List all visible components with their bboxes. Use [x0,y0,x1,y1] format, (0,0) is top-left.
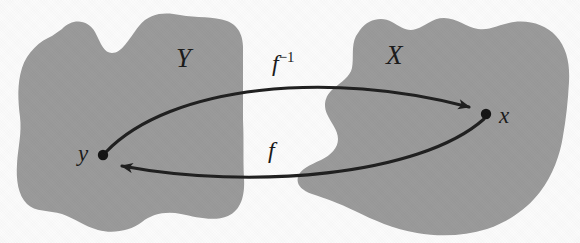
point-y-label: y [78,142,88,165]
set-y-label: Y [176,45,191,72]
set-mapping-figure: Y X y x f−1 f [0,0,580,243]
set-x-shape [298,18,570,235]
arrow-forward-label-base: f [268,137,275,163]
arrow-forward-label: f [268,138,275,162]
figure-canvas [0,0,580,243]
arrow-inverse-label-exponent: −1 [279,49,295,65]
set-y-shape [17,13,244,231]
point-x-dot [481,109,491,119]
arrow-inverse-label: f−1 [272,50,294,75]
arrow-inverse-label-base: f [272,50,279,76]
point-y-dot [98,150,108,160]
set-x-label: X [386,42,403,69]
point-x-label: x [499,104,509,127]
